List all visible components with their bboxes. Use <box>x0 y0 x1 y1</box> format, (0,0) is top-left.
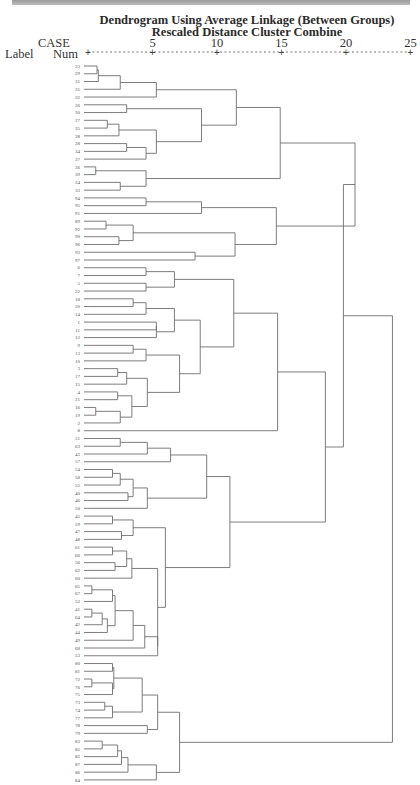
dendrogram-plot: ++++++2329312532263027353828343736392433… <box>0 0 420 785</box>
case-label: 40 <box>75 491 81 496</box>
case-label: 35 <box>75 126 81 131</box>
case-label: 75 <box>75 692 81 697</box>
axis-plus-marker: + <box>85 47 91 58</box>
case-label: 17 <box>75 374 81 379</box>
case-label: 66 <box>75 553 81 558</box>
case-label: 6 <box>78 265 81 270</box>
case-label: 86 <box>75 770 81 775</box>
case-label: 51 <box>75 436 81 441</box>
case-label: 8 <box>78 428 81 433</box>
case-label: 62 <box>75 568 81 573</box>
case-label: 63 <box>75 444 81 449</box>
case-label: 42 <box>75 622 81 627</box>
case-label: 85 <box>75 747 81 752</box>
case-label: 22 <box>75 289 81 294</box>
case-label: 68 <box>75 646 81 651</box>
case-label: 77 <box>75 716 81 721</box>
case-label: 26 <box>75 103 81 108</box>
case-label: 46 <box>75 498 81 503</box>
case-label: 53 <box>75 653 81 658</box>
case-label: 29 <box>75 71 81 76</box>
case-label: 12 <box>75 335 81 340</box>
axis-plus-marker: + <box>214 47 220 58</box>
case-label: 60 <box>75 576 81 581</box>
case-label: 39 <box>75 172 81 177</box>
case-label: 48 <box>75 537 81 542</box>
case-label: 76 <box>75 685 81 690</box>
case-label: 33 <box>75 188 81 193</box>
case-label: 10 <box>75 359 81 364</box>
case-label: 38 <box>75 134 81 139</box>
case-label: 73 <box>75 700 81 705</box>
case-label: 31 <box>75 79 81 84</box>
case-label: 45 <box>75 514 81 519</box>
case-label: 64 <box>75 615 81 620</box>
case-label: 57 <box>75 459 81 464</box>
case-label: 30 <box>75 110 81 115</box>
case-label: 18 <box>75 297 81 302</box>
case-label: 79 <box>75 731 81 736</box>
case-label: 1 <box>78 320 81 325</box>
case-label: 56 <box>75 560 81 565</box>
case-label: 54 <box>75 467 81 472</box>
case-label: 36 <box>75 165 81 170</box>
case-label: 52 <box>75 599 81 604</box>
case-label: 11 <box>75 328 80 333</box>
case-label: 7 <box>78 273 81 278</box>
case-label: 96 <box>75 242 81 247</box>
case-label: 9 <box>78 343 81 348</box>
case-label: 34 <box>75 149 81 154</box>
case-label: 19 <box>75 413 81 418</box>
case-label: 23 <box>75 64 81 69</box>
axis-plus-marker: + <box>279 47 285 58</box>
case-label: 91 <box>75 211 81 216</box>
case-label: 81 <box>75 669 81 674</box>
case-label: 82 <box>75 754 81 759</box>
case-label: 97 <box>75 258 81 263</box>
case-label: 27 <box>75 118 81 123</box>
case-label: 4 <box>78 390 81 395</box>
case-label: 47 <box>75 529 81 534</box>
case-label: 41 <box>75 607 81 612</box>
axis-plus-marker: + <box>408 47 414 58</box>
case-label: 55 <box>75 483 81 488</box>
case-label: 89 <box>75 219 81 224</box>
case-label: 14 <box>75 312 81 317</box>
case-label: 44 <box>75 630 81 635</box>
axis-plus-marker: + <box>150 47 156 58</box>
case-label: 92 <box>75 227 81 232</box>
case-label: 13 <box>75 351 81 356</box>
case-label: 67 <box>75 591 81 596</box>
case-label: 80 <box>75 661 81 666</box>
case-label: 21 <box>75 397 81 402</box>
case-label: 49 <box>75 638 81 643</box>
case-label: 28 <box>75 141 81 146</box>
case-label: 59 <box>75 522 81 527</box>
case-label: 95 <box>75 203 81 208</box>
case-label: 83 <box>75 739 81 744</box>
case-label: 87 <box>75 762 81 767</box>
case-label: 78 <box>75 723 81 728</box>
case-label: 3 <box>78 366 81 371</box>
axis-plus-marker: + <box>343 47 349 58</box>
case-label: 20 <box>75 304 81 309</box>
case-label: 32 <box>75 95 81 100</box>
case-label: 65 <box>75 584 81 589</box>
case-label: 16 <box>75 405 81 410</box>
case-label: 72 <box>75 677 81 682</box>
case-label: 74 <box>75 708 81 713</box>
case-label: 93 <box>75 250 81 255</box>
case-label: 15 <box>75 382 81 387</box>
case-label: 50 <box>75 506 81 511</box>
case-label: 58 <box>75 475 81 480</box>
case-label: 61 <box>75 545 81 550</box>
case-label: 24 <box>75 180 81 185</box>
case-label: 2 <box>78 421 81 426</box>
case-label: 43 <box>75 452 81 457</box>
case-label: 25 <box>75 87 81 92</box>
case-label: 5 <box>78 281 81 286</box>
case-label: 94 <box>75 196 81 201</box>
case-label: 37 <box>75 157 81 162</box>
case-label: 90 <box>75 234 81 239</box>
case-label: 84 <box>75 778 81 783</box>
